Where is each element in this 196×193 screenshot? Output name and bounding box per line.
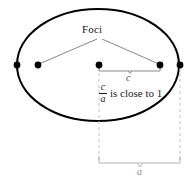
left-vertex-point xyxy=(14,62,21,69)
ratio-fraction: c a xyxy=(99,82,107,104)
foci-label: Foci xyxy=(82,24,102,35)
a-segment-label: a xyxy=(137,167,142,177)
ratio-description: is close to 1 xyxy=(110,88,162,99)
ellipse-figure: Foci c a c a is close to 1 xyxy=(0,0,196,193)
brace-c xyxy=(99,67,160,71)
brace-a xyxy=(99,156,180,163)
eccentricity-statement: c a is close to 1 xyxy=(99,82,162,104)
foci-leader-line-right xyxy=(102,39,159,64)
ratio-denominator: a xyxy=(100,94,107,104)
center-point xyxy=(96,62,103,69)
right-vertex-point xyxy=(177,62,184,69)
right-focus-point xyxy=(157,62,164,69)
ratio-numerator: c xyxy=(100,82,106,92)
left-focus-point xyxy=(35,62,42,69)
foci-leader-line-left xyxy=(39,39,97,64)
